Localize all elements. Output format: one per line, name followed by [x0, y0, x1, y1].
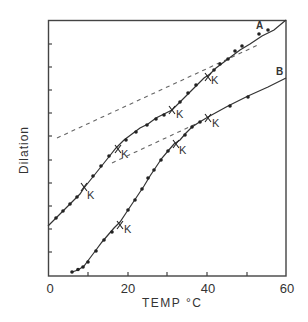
k-label-b1: K: [124, 223, 132, 235]
x-axis-title: TEMP °C: [142, 296, 202, 310]
curve-b-markers: [70, 95, 250, 274]
y-axis-title: Dilation: [17, 120, 31, 180]
k-label-a4: K: [211, 74, 219, 86]
curve-b-label: B: [276, 66, 284, 77]
k-label-a3: K: [176, 108, 184, 120]
k-label-b2: K: [179, 144, 187, 156]
dilation-chart: [0, 0, 308, 322]
curve-a-label: A: [256, 20, 264, 31]
k-label-a2: K: [121, 148, 129, 160]
plot-frame: [49, 21, 287, 277]
x-tick-0: 0: [46, 281, 53, 296]
x-tick-60: 60: [280, 281, 294, 296]
curve-a: [48, 20, 286, 226]
k-label-b3: K: [212, 117, 220, 129]
x-tick-40: 40: [201, 281, 215, 296]
k-label-a1: K: [87, 189, 95, 201]
x-tick-20: 20: [121, 281, 135, 296]
